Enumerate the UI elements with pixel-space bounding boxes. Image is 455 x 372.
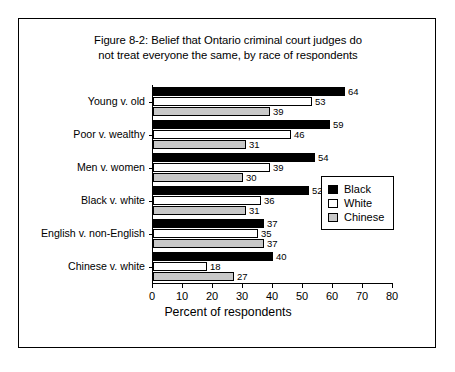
bar-value-label: 18	[210, 262, 221, 271]
bar-chinese	[153, 272, 234, 281]
bar-black	[153, 87, 345, 96]
bar-white	[153, 130, 291, 139]
figure-frame: Figure 8-2: Belief that Ontario criminal…	[18, 18, 436, 348]
bar-chinese	[153, 206, 246, 215]
bar-black	[153, 153, 315, 162]
x-axis-title: Percent of respondents	[19, 305, 437, 319]
bar-group: Young v. old645339	[153, 85, 392, 118]
bar-black	[153, 186, 309, 195]
legend-swatch-icon	[328, 185, 338, 194]
bar-value-label: 64	[348, 87, 359, 96]
x-axis-tick	[242, 283, 243, 288]
x-axis-tick-label: 10	[176, 290, 188, 302]
x-axis-tick	[362, 283, 363, 288]
bar-white	[153, 163, 270, 172]
x-axis-tick	[182, 283, 183, 288]
legend-item: White	[328, 196, 384, 210]
x-axis-tick	[272, 283, 273, 288]
x-axis-tick	[302, 283, 303, 288]
x-axis-tick	[212, 283, 213, 288]
category-label: Black v. white	[81, 195, 145, 206]
x-axis-tick	[152, 283, 153, 288]
category-label: Young v. old	[88, 96, 145, 107]
bar-value-label: 59	[333, 120, 344, 129]
bar-white	[153, 229, 258, 238]
x-axis-tick-label: 30	[236, 290, 248, 302]
bar-chinese	[153, 239, 264, 248]
x-axis-tick-label: 70	[356, 290, 368, 302]
bar-black	[153, 252, 273, 261]
bar-value-label: 35	[261, 229, 272, 238]
bar-chinese	[153, 173, 243, 182]
bar-white	[153, 196, 261, 205]
x-axis-tick-label: 20	[206, 290, 218, 302]
legend-swatch-icon	[328, 199, 338, 208]
bar-value-label: 39	[273, 107, 284, 116]
bar-group: Chinese v. white401827	[153, 250, 392, 283]
bar-value-label: 27	[237, 272, 248, 281]
x-axis-tick-label: 60	[326, 290, 338, 302]
legend-label: White	[344, 198, 372, 209]
bar-chinese	[153, 140, 246, 149]
legend-label: Chinese	[344, 212, 384, 223]
chart-title-line-2: not treat everyone the same, by race of …	[19, 48, 437, 63]
bar-value-label: 53	[315, 97, 326, 106]
chart-title: Figure 8-2: Belief that Ontario criminal…	[19, 33, 437, 63]
x-axis-tick	[392, 283, 393, 288]
bar-white	[153, 262, 207, 271]
legend-item: Chinese	[328, 210, 384, 224]
bar-white	[153, 97, 312, 106]
x-axis-tick-label: 50	[296, 290, 308, 302]
bar-black	[153, 120, 330, 129]
bar-value-label: 30	[246, 173, 257, 182]
legend-item: Black	[328, 182, 384, 196]
legend-label: Black	[344, 184, 371, 195]
bar-value-label: 31	[249, 206, 260, 215]
x-axis-tick-label: 40	[266, 290, 278, 302]
bar-value-label: 36	[264, 196, 275, 205]
bar-value-label: 39	[273, 163, 284, 172]
category-label: Chinese v. white	[68, 261, 145, 272]
bar-value-label: 46	[294, 130, 305, 139]
category-label: Men v. women	[77, 162, 145, 173]
bar-group: Poor v. wealthy594631	[153, 118, 392, 151]
x-axis-tick-label: 0	[149, 290, 155, 302]
bar-value-label: 40	[276, 252, 287, 261]
bar-value-label: 37	[267, 219, 278, 228]
legend-swatch-icon	[328, 213, 338, 222]
bar-value-label: 31	[249, 140, 260, 149]
bar-chinese	[153, 107, 270, 116]
chart-title-line-1: Figure 8-2: Belief that Ontario criminal…	[19, 33, 437, 48]
x-axis-tick	[332, 283, 333, 288]
chart-legend: BlackWhiteChinese	[321, 176, 394, 230]
x-axis-tick-label: 80	[386, 290, 398, 302]
bar-black	[153, 219, 264, 228]
category-label: Poor v. wealthy	[73, 129, 145, 140]
bar-value-label: 54	[318, 153, 329, 162]
category-label: English v. non-English	[41, 228, 145, 239]
bar-value-label: 37	[267, 239, 278, 248]
